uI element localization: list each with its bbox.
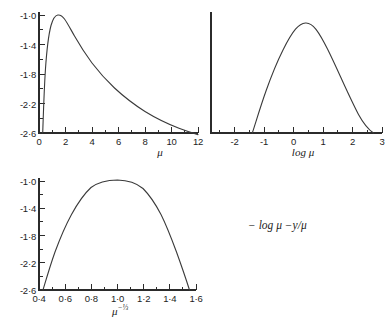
axes-lines (39, 12, 198, 133)
y-tick-label: -1·0 (2, 176, 36, 187)
plot-vs-log-mu: -2 -1 0 1 2 3 log μ (210, 12, 382, 137)
y-tick-label: -2·6 (2, 128, 36, 139)
y-tick-label: -1·8 (2, 230, 36, 241)
x-tick-label: 1 (320, 136, 325, 147)
x-tick-label: 1·2 (137, 293, 150, 304)
x-major-ticks (39, 284, 196, 290)
x-tick-label: 2 (63, 136, 68, 147)
y-major-ticks (39, 15, 45, 133)
y-tick-label: -2·2 (2, 98, 36, 109)
figure-container: -1·0 -1·4 -1·8 -2·2 -2·6 0 2 4 6 8 10 12… (0, 0, 391, 333)
axes-lines (211, 12, 382, 133)
y-tick-label: -1·8 (2, 69, 36, 80)
x-tick-label: 0·6 (59, 293, 72, 304)
plot-vs-mu: -1·0 -1·4 -1·8 -2·2 -2·6 0 2 4 6 8 10 12… (38, 12, 198, 137)
plot-vs-mu-canvas (38, 12, 204, 142)
curve-vs-mu-cuberoot (43, 180, 190, 290)
x-axis-title-exponent: −⅓ (117, 303, 128, 312)
y-major-ticks (39, 181, 45, 290)
x-axis-title: log μ (292, 146, 314, 158)
function-annotation: − log μ −y/μ (248, 219, 307, 231)
y-tick-label: -1·4 (2, 203, 36, 214)
y-tick-label: -1·4 (2, 39, 36, 50)
x-major-ticks (39, 127, 198, 133)
x-tick-label: 4 (89, 136, 94, 147)
plot-vs-log-mu-canvas (210, 12, 388, 142)
plot-vs-mu-cuberoot: -1·0 -1·4 -1·8 -2·2 -2·6 0·4 0·6 0·8 1·0… (38, 178, 198, 296)
x-tick-label: -2 (231, 136, 239, 147)
x-axis-title: μ−⅓ (112, 303, 128, 317)
y-tick-label: -2·6 (2, 285, 36, 296)
x-tick-label: 10 (166, 136, 176, 147)
curve-vs-mu (43, 15, 198, 135)
y-tick-label: -2·2 (2, 257, 36, 268)
x-axis-title: μ (157, 146, 163, 158)
plot-vs-mu-cuberoot-canvas (38, 178, 204, 300)
x-tick-label: 6 (116, 136, 121, 147)
x-tick-label: 2 (350, 136, 355, 147)
x-tick-label: 0·4 (32, 293, 45, 304)
x-tick-label: -1 (260, 136, 268, 147)
x-tick-label: 1·6 (189, 293, 202, 304)
x-tick-label: 0 (36, 136, 41, 147)
x-tick-label: 8 (142, 136, 147, 147)
x-tick-label: 1·4 (163, 293, 176, 304)
x-tick-label: 12 (193, 136, 203, 147)
y-tick-label: -1·0 (2, 10, 36, 21)
x-tick-label: 3 (379, 136, 384, 147)
curve-vs-log-mu (252, 23, 373, 133)
x-tick-label: 0·8 (85, 293, 98, 304)
